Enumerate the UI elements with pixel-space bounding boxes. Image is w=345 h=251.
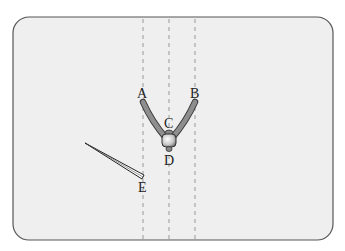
label-c: C	[164, 116, 173, 131]
compass-joint	[162, 134, 176, 147]
label-b: B	[190, 86, 199, 101]
diagram-canvas: A B C D E	[0, 0, 345, 251]
label-e: E	[138, 180, 147, 195]
compass-joint-tip	[166, 147, 172, 152]
label-a: A	[137, 86, 148, 101]
label-d: D	[164, 153, 174, 168]
